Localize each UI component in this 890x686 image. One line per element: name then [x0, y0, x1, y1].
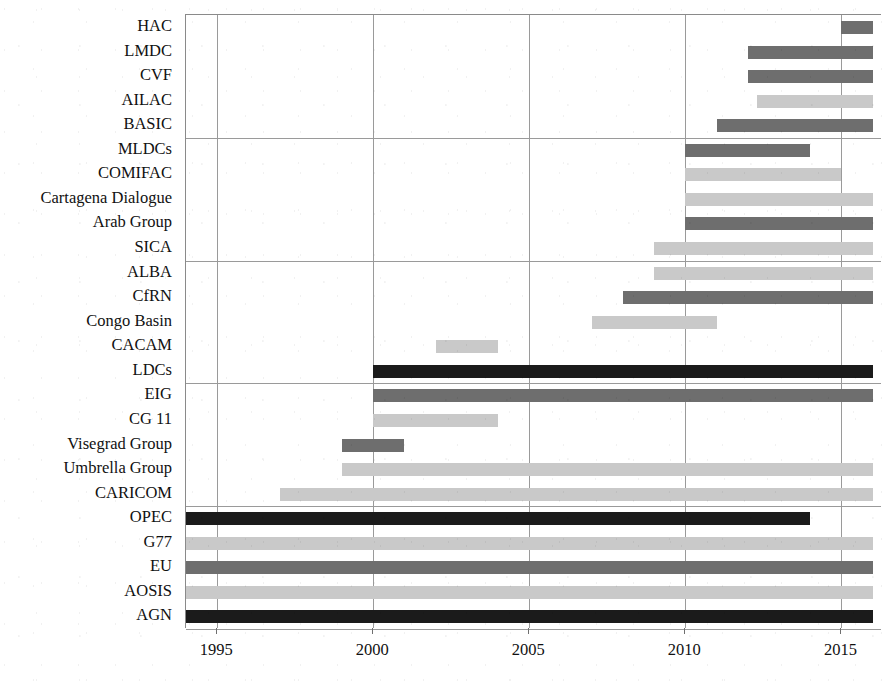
- bar-row: [186, 383, 881, 408]
- y-axis-label: G77: [144, 530, 172, 555]
- y-axis-label-column: HACLMDCCVFAILACBASICMLDCsCOMIFACCartagen…: [0, 14, 178, 628]
- bar-row: [186, 359, 881, 384]
- y-axis-label: ALBA: [127, 260, 172, 285]
- y-axis-label: EU: [150, 554, 172, 579]
- x-tick-mark: [372, 628, 373, 634]
- timeline-bar: [186, 610, 873, 623]
- y-axis-label: CG 11: [129, 407, 172, 432]
- bar-row: [186, 89, 881, 114]
- timeline-bar: [280, 488, 873, 501]
- bar-row: [186, 15, 881, 40]
- timeline-bar: [373, 414, 498, 427]
- x-tick-mark: [528, 628, 529, 634]
- bar-row: [186, 531, 881, 556]
- bar-row: [186, 162, 881, 187]
- bar-row: [186, 211, 881, 236]
- y-axis-label: CfRN: [133, 284, 172, 309]
- y-axis-label: Umbrella Group: [63, 456, 172, 481]
- y-axis-label: AGN: [136, 603, 172, 628]
- y-axis-label: CARICOM: [95, 481, 172, 506]
- timeline-bar: [685, 217, 872, 230]
- y-axis-label: AILAC: [122, 88, 172, 113]
- timeline-bar: [186, 537, 873, 550]
- bar-row: [186, 187, 881, 212]
- timeline-bar: [685, 168, 841, 181]
- bar-row: [186, 261, 881, 286]
- timeline-bar: [748, 70, 873, 83]
- y-axis-label: CACAM: [111, 333, 172, 358]
- bar-row: [186, 580, 881, 605]
- timeline-bar: [623, 291, 873, 304]
- bar-row: [186, 482, 881, 507]
- y-axis-label: LDCs: [133, 358, 172, 383]
- y-axis-label: CVF: [140, 63, 172, 88]
- x-tick-mark: [684, 628, 685, 634]
- x-axis: 19952000200520102015: [185, 628, 881, 668]
- bar-row: [186, 113, 881, 138]
- x-tick-label: 2010: [668, 640, 701, 660]
- y-axis-label: MLDCs: [118, 137, 172, 162]
- y-axis-label: COMIFAC: [98, 161, 172, 186]
- bar-row: [186, 285, 881, 310]
- bar-row: [186, 236, 881, 261]
- timeline-bar: [717, 119, 873, 132]
- timeline-bar: [654, 242, 872, 255]
- bar-row: [186, 310, 881, 335]
- y-axis-label: Visegrad Group: [67, 432, 172, 457]
- timeline-bar: [373, 365, 872, 378]
- plot-area: [185, 14, 881, 628]
- y-axis-label: AOSIS: [124, 579, 172, 604]
- y-axis-label: Congo Basin: [86, 309, 172, 334]
- bar-row: [186, 408, 881, 433]
- timeline-bar: [373, 389, 872, 402]
- y-axis-label: EIG: [145, 382, 173, 407]
- timeline-bar: [436, 340, 498, 353]
- y-axis-label: HAC: [137, 14, 172, 39]
- timeline-chart: HACLMDCCVFAILACBASICMLDCsCOMIFACCartagen…: [0, 0, 890, 686]
- bar-row: [186, 40, 881, 65]
- timeline-bar: [757, 95, 872, 108]
- timeline-bar: [685, 144, 810, 157]
- timeline-bar: [748, 46, 873, 59]
- x-tick-mark: [840, 628, 841, 634]
- bar-row: [186, 334, 881, 359]
- timeline-bar: [186, 586, 873, 599]
- timeline-bar: [342, 463, 873, 476]
- y-axis-label: BASIC: [123, 112, 172, 137]
- y-axis-label: Cartagena Dialogue: [41, 186, 172, 211]
- x-tick-label: 2015: [824, 640, 857, 660]
- bar-row: [186, 506, 881, 531]
- timeline-bar: [685, 193, 872, 206]
- bar-row: [186, 433, 881, 458]
- timeline-bar: [186, 512, 810, 525]
- timeline-bar: [342, 439, 404, 452]
- y-axis-label: SICA: [134, 235, 172, 260]
- y-axis-label: LMDC: [124, 39, 172, 64]
- bar-row: [186, 555, 881, 580]
- y-axis-label: Arab Group: [93, 210, 172, 235]
- bar-row: [186, 64, 881, 89]
- x-tick-label: 1995: [200, 640, 233, 660]
- x-tick-mark: [216, 628, 217, 634]
- y-axis-label: OPEC: [130, 505, 172, 530]
- timeline-bar: [592, 316, 717, 329]
- x-tick-label: 2000: [356, 640, 389, 660]
- bar-row: [186, 138, 881, 163]
- timeline-bar: [654, 267, 872, 280]
- bar-row: [186, 457, 881, 482]
- x-tick-label: 2005: [512, 640, 545, 660]
- timeline-bar: [186, 561, 873, 574]
- timeline-bar: [841, 21, 872, 34]
- bar-row: [186, 604, 881, 629]
